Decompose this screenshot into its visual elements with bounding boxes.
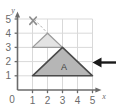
large-triangle-label: A xyxy=(61,62,67,72)
x-tick-label-5: 5 xyxy=(90,95,96,106)
x-tick-label-2: 2 xyxy=(45,95,51,106)
x-tick-label-3: 3 xyxy=(60,95,66,106)
y-tick-label-3: 3 xyxy=(5,42,11,53)
figure-svg: A 1 2 3 4 5 xyxy=(0,0,116,109)
x-tick-label-4: 4 xyxy=(75,95,81,106)
coordinate-grid-figure: A 1 2 3 4 5 xyxy=(0,0,116,109)
x-tick-label-1: 1 xyxy=(30,95,36,106)
y-axis-label: y xyxy=(10,6,15,15)
y-tick-label-4: 4 xyxy=(5,28,11,39)
origin-label: 0 xyxy=(9,94,15,105)
x-axis-label: x xyxy=(101,92,106,101)
y-tick-label-2: 2 xyxy=(5,56,11,67)
y-tick-label-1: 1 xyxy=(5,70,11,81)
y-tick-labels: 1 2 3 4 5 xyxy=(5,14,11,82)
y-tick-label-5: 5 xyxy=(5,14,11,25)
